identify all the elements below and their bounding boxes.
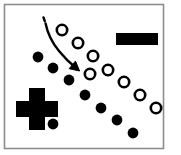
minus-symbol <box>116 33 158 45</box>
filled-circle-marker <box>112 115 123 126</box>
filled-circle-marker <box>96 103 107 114</box>
filled-circle-marker <box>128 128 139 139</box>
hollow-circle-marker <box>73 38 83 48</box>
figure-canvas <box>0 0 181 155</box>
hollow-circle-marker <box>151 103 161 113</box>
figure-container: Two-class point distribution with class … <box>0 0 181 155</box>
hollow-circle-marker <box>135 90 145 100</box>
figure-border <box>5 5 164 149</box>
filled-circle-marker <box>33 52 44 63</box>
plus-vertical-bar <box>29 88 45 130</box>
filled-circle-marker <box>80 90 91 101</box>
arrow-dash-tail <box>44 18 45 22</box>
hollow-circle-marker <box>57 25 67 35</box>
filled-circle-marker <box>48 63 59 74</box>
filled-circle-marker <box>64 75 75 86</box>
hollow-circle-marker <box>103 65 113 75</box>
filled-circle-marker <box>48 119 59 130</box>
hollow-circle-marker <box>85 69 95 79</box>
hollow-circle-marker <box>119 77 129 87</box>
hollow-circle-marker <box>88 51 98 61</box>
